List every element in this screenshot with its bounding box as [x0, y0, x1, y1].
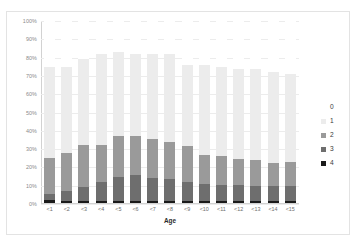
bar-column[interactable]: [250, 21, 261, 204]
plot-inner: [41, 21, 299, 204]
bar-column[interactable]: [164, 21, 175, 204]
bar-column[interactable]: [233, 21, 244, 204]
y-axis-tick-label: 70%: [26, 73, 37, 79]
chart-frame: 100%90%80%70%60%50%40%30%20%10%0% <1<2<3…: [6, 11, 350, 235]
bar-segment: [113, 136, 124, 177]
bar-segment: [96, 145, 107, 182]
bar-segment: [78, 21, 89, 59]
bar-column[interactable]: [285, 21, 296, 204]
bar-segment: [268, 21, 279, 72]
bar-segment: [130, 54, 141, 136]
bar-segment: [164, 179, 175, 201]
bar-segment: [199, 21, 210, 65]
bar-column[interactable]: [130, 21, 141, 204]
bar-segment: [147, 21, 158, 54]
y-axis-tick-label: 50%: [26, 110, 37, 116]
bar-segment: [147, 54, 158, 139]
gridline: [41, 204, 299, 205]
bar-segment: [199, 65, 210, 155]
bar-segment: [147, 178, 158, 201]
bar-column[interactable]: [44, 21, 55, 204]
bar-segment: [130, 21, 141, 54]
bar-segment: [113, 52, 124, 136]
legend-swatch-icon: [321, 147, 326, 152]
bar-segment: [268, 186, 279, 201]
legend: 01234: [321, 100, 355, 170]
bar-segment: [44, 21, 55, 67]
legend-label: 2: [330, 132, 334, 139]
plot-area: <1<2<3<4<5<6<7<8<9<10<11<12<13<14<15 Age: [41, 21, 299, 215]
y-axis-tick-label: 80%: [26, 55, 37, 61]
bar-column[interactable]: [96, 21, 107, 204]
legend-item[interactable]: 4: [321, 156, 355, 170]
bar-segment: [44, 158, 55, 194]
bar-segment: [268, 72, 279, 163]
bar-segment: [44, 67, 55, 159]
bar-segment: [96, 182, 107, 201]
y-axis-tick-labels: 100%90%80%70%60%50%40%30%20%10%0%: [7, 21, 37, 204]
clipped-caption-sliver: [6, 0, 156, 7]
bar-segment: [250, 69, 261, 160]
bar-column[interactable]: [182, 21, 193, 204]
bar-segment: [216, 156, 227, 185]
bar-column[interactable]: [268, 21, 279, 204]
bar-column[interactable]: [199, 21, 210, 204]
bar-segment: [233, 69, 244, 159]
bar-segment: [61, 153, 72, 191]
bar-segment: [250, 186, 261, 201]
bar-segment: [164, 54, 175, 142]
bar-segment: [216, 21, 227, 67]
bar-segment: [216, 185, 227, 201]
legend-label: 1: [330, 118, 334, 125]
y-axis-tick-label: 40%: [26, 128, 37, 134]
bar-segment: [182, 21, 193, 65]
legend-label: 3: [330, 146, 334, 153]
bar-segment: [113, 21, 124, 52]
bar-segment: [96, 21, 107, 54]
bar-column[interactable]: [147, 21, 158, 204]
bar-segment: [285, 74, 296, 162]
y-axis-tick-label: 100%: [23, 18, 37, 24]
bar-segment: [233, 159, 244, 186]
bar-segment: [250, 160, 261, 187]
bar-segment: [113, 177, 124, 201]
bar-segment: [250, 21, 261, 69]
legend-item[interactable]: 2: [321, 128, 355, 142]
y-axis-tick-label: 10%: [26, 183, 37, 189]
legend-item[interactable]: 0: [321, 100, 355, 114]
bar-segment: [182, 65, 193, 146]
bar-group: [41, 21, 299, 204]
y-axis-tick-label: 0%: [29, 201, 37, 207]
bar-segment: [130, 175, 141, 201]
legend-item[interactable]: 3: [321, 142, 355, 156]
legend-swatch-icon: [321, 133, 326, 138]
bar-segment: [96, 54, 107, 145]
bar-column[interactable]: [113, 21, 124, 204]
bar-segment: [61, 67, 72, 153]
bar-segment: [199, 155, 210, 184]
bar-segment: [78, 59, 89, 144]
bar-column[interactable]: [216, 21, 227, 204]
bar-segment: [268, 163, 279, 186]
bar-column[interactable]: [61, 21, 72, 204]
chart-figure: 100%90%80%70%60%50%40%30%20%10%0% <1<2<3…: [0, 0, 358, 249]
y-axis-tick-label: 60%: [26, 91, 37, 97]
legend-item[interactable]: 1: [321, 114, 355, 128]
y-axis-tick-label: 20%: [26, 164, 37, 170]
bar-segment: [61, 191, 72, 201]
bar-segment: [285, 186, 296, 201]
bar-segment: [61, 21, 72, 67]
y-axis-tick-label: 90%: [26, 36, 37, 42]
legend-label: 0: [330, 104, 334, 111]
bar-segment: [147, 139, 158, 178]
bar-column[interactable]: [78, 21, 89, 204]
bar-segment: [285, 162, 296, 186]
bar-segment: [78, 145, 89, 187]
bar-segment: [130, 136, 141, 175]
legend-swatch-icon: [321, 119, 326, 124]
legend-label: 4: [330, 160, 334, 167]
bar-segment: [78, 187, 89, 201]
bar-segment: [285, 21, 296, 74]
legend-swatch-icon: [321, 161, 326, 166]
legend-swatch-icon: [321, 105, 326, 110]
